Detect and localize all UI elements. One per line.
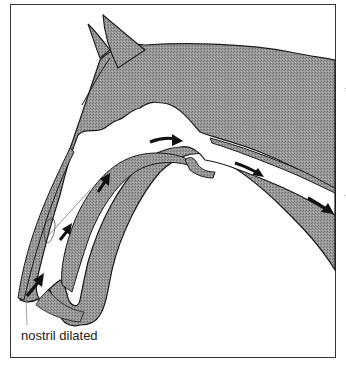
nostril-label: nostril dilated xyxy=(21,328,98,343)
horse-head-diagram xyxy=(0,0,346,365)
scan-speck xyxy=(344,195,345,196)
